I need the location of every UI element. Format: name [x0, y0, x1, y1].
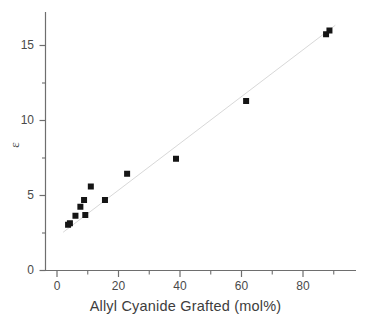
- x-axis-title: Allyl Cyanide Grafted (mol%): [0, 298, 371, 314]
- data-point: [82, 212, 88, 218]
- x-tick-label: 60: [222, 279, 262, 293]
- data-point: [81, 197, 87, 203]
- data-point: [67, 220, 73, 226]
- data-point: [72, 213, 78, 219]
- y-tick-label: 5: [0, 188, 34, 202]
- x-tick-label: 40: [160, 279, 200, 293]
- y-tick-label: 15: [0, 38, 34, 52]
- data-point: [243, 98, 249, 104]
- x-tick-label: 20: [99, 279, 139, 293]
- data-point: [124, 171, 130, 177]
- data-point: [326, 28, 332, 34]
- x-tick-label: 80: [283, 279, 323, 293]
- data-point: [88, 184, 94, 190]
- y-axis-ticks: [40, 46, 46, 271]
- data-point: [77, 204, 83, 210]
- x-axis-ticks: [57, 271, 334, 278]
- y-tick-label: 10: [0, 113, 34, 127]
- y-tick-label: 0: [0, 263, 34, 277]
- data-point: [102, 197, 108, 203]
- data-point: [173, 156, 179, 162]
- scatter-plot-canvas: [0, 0, 371, 327]
- x-tick-label: 0: [37, 279, 77, 293]
- chart-figure: 051015020406080 Allyl Cyanide Grafted (m…: [0, 0, 371, 327]
- y-axis-title: ε: [7, 136, 23, 154]
- axis-lines: [45, 12, 356, 271]
